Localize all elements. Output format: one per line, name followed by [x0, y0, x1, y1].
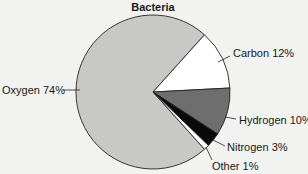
label-oxygen: Oxygen 74%: [2, 84, 65, 96]
label-nitrogen: Nitrogen 3%: [227, 141, 288, 153]
chart-title: Bacteria: [131, 1, 175, 13]
label-hydrogen: Hydrogen 10%: [239, 114, 308, 126]
label-carbon: Carbon 12%: [233, 47, 294, 59]
pie-slices: [76, 15, 230, 169]
pie-chart: Bacteria Oxygen 74% Carbon 12% Hydrogen …: [0, 0, 308, 174]
label-other: Other 1%: [212, 160, 259, 172]
